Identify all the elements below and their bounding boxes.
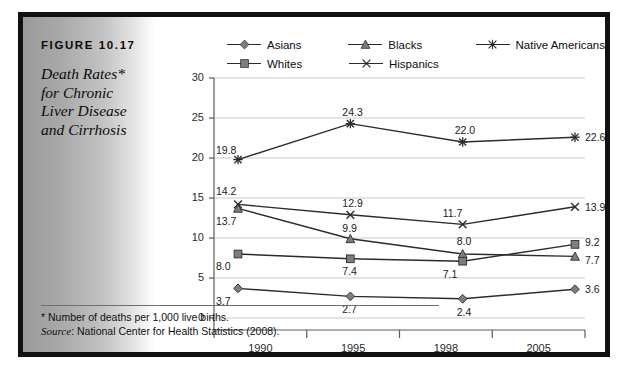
data-label-native-americans: 22.6: [585, 131, 605, 143]
series-line-native-americans: [238, 124, 575, 160]
data-point-whites: [459, 257, 467, 265]
data-label-whites: 8.0: [216, 260, 231, 272]
data-point-whites: [234, 250, 242, 258]
y-axis-tick-label: 30: [182, 71, 204, 83]
data-point-native-americans: [458, 137, 467, 146]
data-point-asians: [458, 294, 467, 303]
data-label-whites: 9.2: [585, 236, 600, 248]
series-line-blacks: [238, 208, 575, 256]
data-label-blacks: 9.9: [342, 222, 357, 234]
y-axis-tick-label: 25: [182, 111, 204, 123]
data-label-native-americans: 24.3: [342, 106, 362, 118]
data-label-asians: 3.6: [585, 283, 600, 295]
figure-title-line: Death Rates*: [41, 65, 145, 84]
y-axis-tick-label: 20: [182, 151, 204, 163]
data-label-whites: 7.1: [443, 268, 458, 280]
data-point-asians: [234, 284, 243, 293]
footnote-divider: [41, 305, 439, 306]
figure-title-line: for Chronic: [41, 84, 145, 103]
figure-title: Death Rates* for Chronic Liver Disease a…: [41, 65, 145, 139]
figure-number: FIGURE 10.17: [41, 39, 136, 51]
y-axis-tick-label: 10: [182, 231, 204, 243]
data-label-hispanics: 11.7: [443, 207, 463, 219]
data-point-whites: [346, 255, 354, 263]
figure-title-line: and Cirrhosis: [41, 121, 145, 140]
y-axis-tick-label: 15: [182, 191, 204, 203]
figure-caption-panel: FIGURE 10.17 Death Rates* for Chronic Li…: [23, 17, 155, 352]
data-label-hispanics: 12.9: [342, 197, 362, 209]
data-label-hispanics: 14.2: [216, 185, 236, 197]
data-point-asians: [571, 285, 580, 294]
figure-inner: FIGURE 10.17 Death Rates* for Chronic Li…: [23, 17, 605, 352]
data-label-blacks: 8.0: [457, 235, 472, 247]
data-label-hispanics: 13.9: [585, 201, 605, 213]
data-label-whites: 7.4: [342, 265, 357, 277]
data-label-native-americans: 22.0: [455, 124, 475, 136]
footnote-note: * Number of deaths per 1,000 live births…: [41, 310, 441, 324]
data-point-whites: [571, 241, 579, 249]
chart-plot-area: 05101520253019901995199820053.72.72.43.6…: [155, 17, 605, 352]
data-point-asians: [346, 292, 355, 301]
data-label-blacks: 13.7: [216, 215, 236, 227]
x-axis-tick-label: 1995: [323, 342, 383, 352]
data-label-blacks: 7.7: [585, 254, 600, 266]
source-label: Source: [41, 325, 71, 337]
footnote-source: Source: National Center for Health Stati…: [41, 324, 441, 338]
x-axis-tick-label: 2005: [509, 342, 569, 352]
x-axis-tick-label: 1998: [416, 342, 476, 352]
data-point-native-americans: [570, 133, 579, 142]
y-axis-tick-label: 5: [182, 271, 204, 283]
data-point-native-americans: [346, 119, 355, 128]
data-label-asians: 2.4: [457, 306, 472, 318]
series-line-asians: [238, 288, 575, 298]
source-text: : National Center for Health Statistics …: [71, 325, 279, 337]
data-label-native-americans: 19.8: [216, 144, 236, 156]
data-point-native-americans: [233, 155, 242, 164]
x-axis-tick-label: 1990: [230, 342, 290, 352]
figure-footnote: * Number of deaths per 1,000 live births…: [41, 310, 441, 338]
figure-title-line: Liver Disease: [41, 102, 145, 121]
chart-region: AsiansBlacksNative AmericansWhitesHispan…: [155, 17, 605, 352]
figure-frame: FIGURE 10.17 Death Rates* for Chronic Li…: [18, 12, 610, 357]
